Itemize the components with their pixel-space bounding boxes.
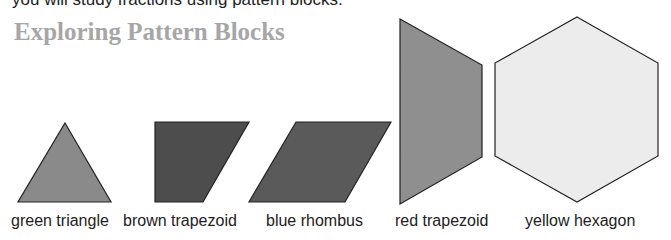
yellow-hexagon-label: yellow hexagon	[525, 212, 635, 230]
red-trapezoid-shape	[400, 19, 482, 204]
red-trapezoid-label: red trapezoid	[395, 212, 488, 230]
blue-rhombus-label: blue rhombus	[266, 212, 363, 230]
brown-trapezoid-shape	[155, 122, 249, 202]
green-triangle-label: green triangle	[11, 212, 109, 230]
pattern-blocks-figure	[0, 0, 671, 240]
green-triangle-shape	[18, 123, 111, 202]
yellow-hexagon-shape	[495, 17, 658, 202]
blue-rhombus-shape	[249, 122, 391, 202]
brown-trapezoid-label: brown trapezoid	[123, 212, 237, 230]
